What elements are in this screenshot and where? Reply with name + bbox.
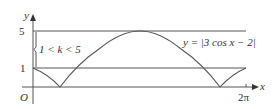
y-tick-5: 5 [19, 26, 25, 37]
x-tick-2pi: 2π [238, 92, 249, 103]
origin-label: O [20, 92, 28, 103]
y-tick-1: 1 [20, 63, 26, 74]
y-axis-label: y [24, 10, 29, 21]
y-axis-arrow-icon [30, 14, 36, 21]
curve-label: y = |3 cos x − 2| [183, 37, 256, 48]
x-axis-arrow-icon [252, 84, 259, 90]
region-label: 1 < k < 5 [39, 44, 81, 55]
x-axis-label: x [260, 81, 265, 92]
region-brace [34, 32, 36, 67]
